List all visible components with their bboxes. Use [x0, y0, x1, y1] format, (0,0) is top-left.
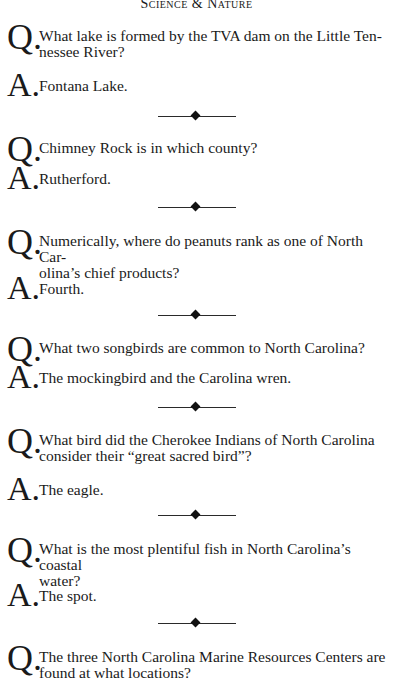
answer-5: A. The eagle.: [7, 482, 387, 498]
a-label: A.: [7, 580, 40, 610]
diamond-rule-icon: [191, 402, 201, 412]
answer-text: Fourth.: [39, 281, 387, 297]
diamond-rule-icon: [191, 202, 201, 212]
diamond-rule-icon: [191, 310, 201, 320]
section-divider: [158, 207, 236, 208]
question-text-line: What is the most plentiful fish in North…: [39, 541, 387, 573]
a-label: A.: [7, 474, 40, 504]
answer-text: Rutherford.: [39, 171, 387, 187]
question-text-line: Numerically, where do peanuts rank as on…: [39, 233, 387, 265]
question-3: Q. Numerically, where do peanuts rank as…: [7, 233, 387, 281]
a-label: A.: [7, 70, 40, 100]
question-text-line: The three North Carolina Marine Resource…: [39, 649, 387, 665]
question-text-line: Chimney Rock is in which county?: [39, 140, 387, 156]
question-text-line: What two songbirds are common to North C…: [39, 340, 387, 356]
question-text-line: olina’s chief products?: [39, 265, 387, 281]
section-divider: [158, 623, 236, 624]
a-label: A.: [7, 273, 40, 303]
answer-text: The eagle.: [39, 482, 387, 498]
q-label: Q.: [7, 535, 42, 565]
answer-3: A. Fourth.: [7, 281, 387, 297]
question-1: Q. What lake is formed by the TVA dam on…: [7, 28, 387, 60]
answer-2: A. Rutherford.: [7, 171, 387, 187]
q-label: Q.: [7, 426, 42, 456]
section-divider: [158, 315, 236, 316]
question-text-line: found at what locations?: [39, 665, 387, 681]
answer-text: The mockingbird and the Carolina wren.: [39, 370, 387, 386]
question-7: Q. The three North Carolina Marine Resou…: [7, 649, 387, 681]
question-text-line: consider their “great sacred bird”?: [39, 448, 387, 464]
answer-text: The spot.: [39, 588, 387, 604]
diamond-rule-icon: [191, 111, 201, 121]
question-2: Q. Chimney Rock is in which county?: [7, 140, 387, 156]
q-label: Q.: [7, 643, 42, 673]
a-label: A.: [7, 362, 40, 392]
question-text-line: nessee River?: [39, 44, 387, 60]
q-label: Q.: [7, 227, 42, 257]
section-divider: [158, 407, 236, 408]
diamond-rule-icon: [191, 510, 201, 520]
question-5: Q. What bird did the Cherokee Indians of…: [7, 432, 387, 464]
section-divider: [158, 515, 236, 516]
question-text-line: What bird did the Cherokee Indians of No…: [39, 432, 387, 448]
question-6: Q. What is the most plentiful fish in No…: [7, 541, 387, 589]
diamond-rule-icon: [191, 618, 201, 628]
answer-4: A. The mockingbird and the Carolina wren…: [7, 370, 387, 386]
a-label: A.: [7, 163, 40, 193]
answer-text: Fontana Lake.: [39, 78, 387, 94]
question-text-line: What lake is formed by the TVA dam on th…: [39, 28, 387, 44]
answer-6: A. The spot.: [7, 588, 387, 604]
answer-1: A. Fontana Lake.: [7, 78, 387, 94]
q-label: Q.: [7, 22, 42, 52]
question-4: Q. What two songbirds are common to Nort…: [7, 340, 387, 356]
section-divider: [158, 116, 236, 117]
page-header: Science & Nature: [0, 0, 393, 12]
